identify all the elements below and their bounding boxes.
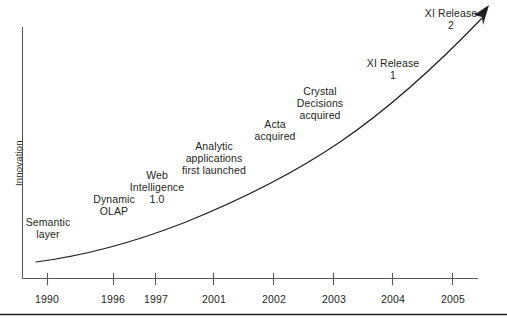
annotation-crystal-decisions: Crystal Decisions acquired bbox=[297, 85, 343, 122]
annotation-web-intelligence: Web Intelligence 1.0 bbox=[130, 169, 184, 206]
x-tick-label-1990: 1990 bbox=[35, 293, 59, 305]
annotation-analytic-applications: Analytic applications first launched bbox=[182, 140, 246, 177]
x-tick-label-2001: 2001 bbox=[202, 293, 226, 305]
annotation-dynamic-olap: Dynamic OLAP bbox=[93, 193, 135, 217]
annotation-xi-release-1: XI Release 1 bbox=[367, 57, 419, 81]
x-tick-label-1996: 1996 bbox=[101, 293, 125, 305]
annotation-acta-acquired: Acta acquired bbox=[254, 118, 295, 142]
innovation-timeline-chart: Innovation 1990 1996 1997 2001 2002 2003… bbox=[0, 0, 507, 318]
x-tick-label-2005: 2005 bbox=[441, 293, 465, 305]
annotation-semantic-layer: Semantic layer bbox=[26, 216, 71, 240]
annotation-xi-release-2: XI Release 2 bbox=[425, 7, 477, 31]
y-axis-title: Innovation bbox=[13, 140, 24, 186]
x-tick-label-2003: 2003 bbox=[322, 293, 346, 305]
x-tick-label-2002: 2002 bbox=[262, 293, 286, 305]
chart-canvas bbox=[0, 0, 507, 318]
x-tick-label-1997: 1997 bbox=[144, 293, 168, 305]
x-tick-label-2004: 2004 bbox=[381, 293, 405, 305]
